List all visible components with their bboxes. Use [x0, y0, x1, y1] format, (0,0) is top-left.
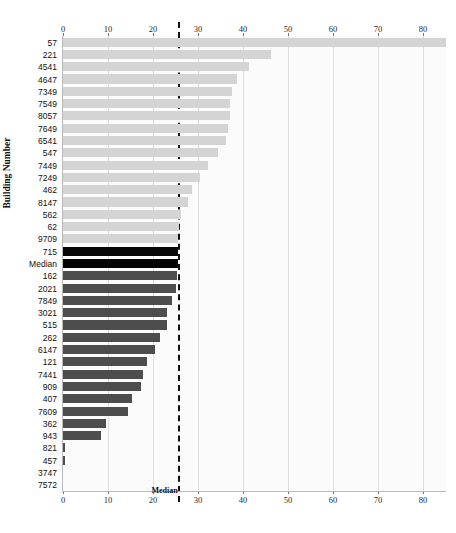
bar: [63, 87, 232, 96]
chart-row: 3021: [0, 307, 456, 319]
chart-row: 457: [0, 454, 456, 466]
chart-row: 62: [0, 220, 456, 232]
y-tick-label: 7649: [0, 124, 57, 134]
bar: [63, 197, 188, 206]
y-tick-label: 4647: [0, 75, 57, 85]
bar: [63, 443, 65, 452]
chart-row: 3747: [0, 466, 456, 478]
bar: [63, 357, 147, 366]
bar: [63, 271, 177, 280]
chart-row: 547: [0, 147, 456, 159]
bar: [63, 394, 132, 403]
chart-row: 7449: [0, 159, 456, 171]
y-tick-label: 362: [0, 419, 57, 429]
y-tick-label: 7849: [0, 296, 57, 306]
bar: [63, 382, 141, 391]
chart-row: 7609: [0, 405, 456, 417]
x-tick-label-bottom: 60: [321, 495, 345, 505]
bar: [63, 99, 230, 108]
bar: [63, 62, 249, 71]
y-tick-label: 7609: [0, 407, 57, 417]
chart-row: 7549: [0, 97, 456, 109]
y-tick-label: 462: [0, 185, 57, 195]
y-tick-label: 7549: [0, 99, 57, 109]
chart-row: 362: [0, 417, 456, 429]
x-tick-label-bottom: 30: [186, 495, 210, 505]
bar-chart-figure: Building Number 001010202030304040505060…: [0, 0, 456, 533]
y-tick-label: 2021: [0, 284, 57, 294]
chart-row: 7849: [0, 294, 456, 306]
y-tick-label: 57: [0, 38, 57, 48]
bar: [63, 370, 143, 379]
chart-row: 221: [0, 48, 456, 60]
chart-row: 4541: [0, 61, 456, 73]
chart-row: 7441: [0, 368, 456, 380]
chart-row: 262: [0, 331, 456, 343]
chart-row: 7249: [0, 171, 456, 183]
y-tick-label: 547: [0, 148, 57, 158]
chart-row: 562: [0, 208, 456, 220]
chart-row: 57: [0, 36, 456, 48]
chart-row: 2021: [0, 282, 456, 294]
y-tick-label: 943: [0, 431, 57, 441]
bar: [63, 407, 128, 416]
y-tick-label: 262: [0, 333, 57, 343]
y-tick-label: 8057: [0, 111, 57, 121]
y-tick-label: 221: [0, 50, 57, 60]
y-tick-label: 715: [0, 247, 57, 257]
y-tick-label: 515: [0, 320, 57, 330]
y-tick-label: 162: [0, 271, 57, 281]
y-tick-label: 821: [0, 443, 57, 453]
y-tick-label: 457: [0, 456, 57, 466]
chart-row: Median: [0, 257, 456, 269]
y-tick-label: 62: [0, 222, 57, 232]
bar: [63, 148, 218, 157]
bar: [63, 74, 237, 83]
bar: [63, 124, 228, 133]
bar: [63, 296, 172, 305]
x-axis-line: [62, 491, 446, 492]
bar: [63, 284, 176, 293]
x-tick-label-bottom: 50: [276, 495, 300, 505]
y-tick-label: 3747: [0, 468, 57, 478]
x-tick-label-bottom: 10: [96, 495, 120, 505]
chart-row: 7349: [0, 85, 456, 97]
y-tick-label: Median: [0, 259, 57, 269]
y-tick-label: 9709: [0, 234, 57, 244]
bar: [63, 210, 181, 219]
chart-row: 909: [0, 380, 456, 392]
x-tick-label-bottom: 20: [141, 495, 165, 505]
chart-row: 462: [0, 184, 456, 196]
y-tick-label: 4541: [0, 62, 57, 72]
y-tick-label: 3021: [0, 308, 57, 318]
chart-row: 821: [0, 442, 456, 454]
chart-row: 4647: [0, 73, 456, 85]
y-tick-label: 909: [0, 382, 57, 392]
bar: [63, 431, 101, 440]
bar: [63, 320, 167, 329]
chart-row: 6541: [0, 134, 456, 146]
y-tick-label: 7572: [0, 480, 57, 490]
chart-row: 407: [0, 393, 456, 405]
bar: [63, 308, 167, 317]
chart-row: 121: [0, 356, 456, 368]
chart-row: 7572: [0, 479, 456, 491]
chart-row: 162: [0, 270, 456, 282]
bar: [63, 345, 155, 354]
chart-row: 715: [0, 245, 456, 257]
bar: [63, 234, 178, 243]
bar: [63, 333, 160, 342]
x-tick-label-bottom: 70: [366, 495, 390, 505]
bar: [63, 185, 192, 194]
bar: [63, 456, 65, 465]
chart-row: 515: [0, 319, 456, 331]
bar: [63, 419, 106, 428]
bar: [63, 111, 230, 120]
bar: [63, 173, 200, 182]
y-tick-label: 8147: [0, 198, 57, 208]
x-tick-label-bottom: 80: [411, 495, 435, 505]
bar: [63, 50, 271, 59]
bar: [63, 161, 208, 170]
chart-row: 943: [0, 430, 456, 442]
chart-row: 8057: [0, 110, 456, 122]
